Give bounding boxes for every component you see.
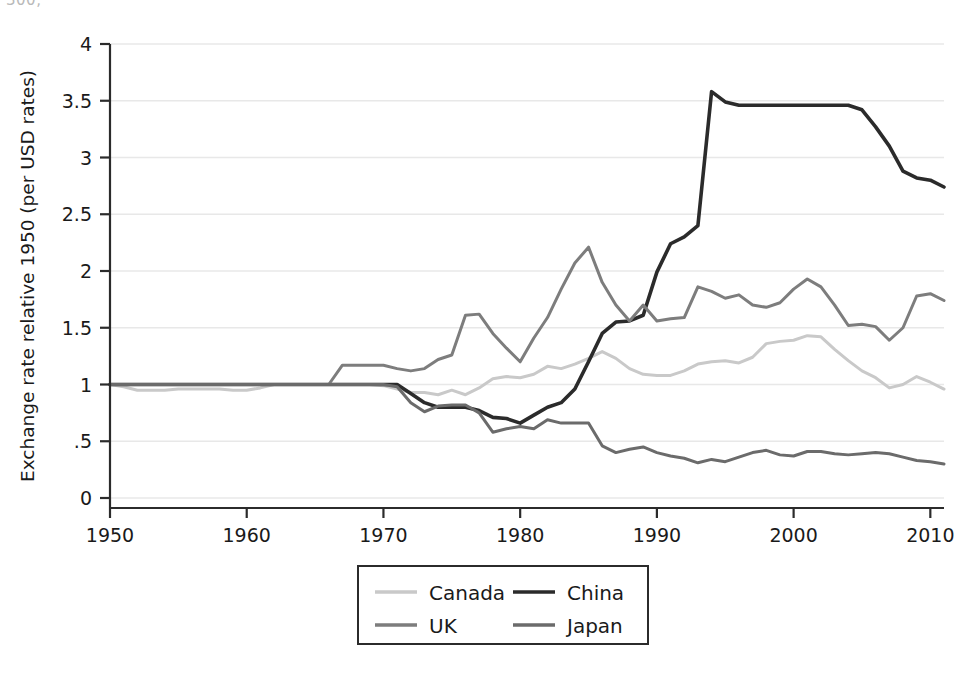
y-tick-label: 2 [80,260,92,282]
x-tick-label: 1990 [633,524,681,546]
legend-label-canada[interactable]: Canada [429,581,505,605]
legend-label-china[interactable]: China [567,581,624,605]
chart-legend[interactable]: CanadaChinaUKJapan [358,566,648,644]
y-tick-label: 4 [80,33,92,55]
legend-label-uk[interactable]: UK [429,614,458,638]
x-tick-label: 2010 [906,524,954,546]
chart-figure: 300, 0.511.522.533.54 195019601970198019… [0,0,956,683]
y-tick-label: 1 [80,374,92,396]
x-tick-label: 1960 [223,524,271,546]
x-tick-label: 1980 [496,524,544,546]
y-tick-label: 0 [80,487,92,509]
exchange-rate-line-chart: 0.511.522.533.54 19501960197019801990200… [0,0,956,683]
y-tick-label: 3.5 [62,90,92,112]
y-tick-label: 2.5 [62,203,92,225]
x-tick-label: 1970 [359,524,407,546]
y-tick-label: 1.5 [62,317,92,339]
y-tick-label: 3 [80,147,92,169]
x-tick-label: 2000 [769,524,817,546]
y-tick-label: .5 [74,430,92,452]
y-axis-title: Exchange rate relative 1950 (per USD rat… [17,70,38,482]
x-tick-label: 1950 [86,524,134,546]
legend-label-japan[interactable]: Japan [565,614,623,638]
clipped-header-text: 300, [6,0,41,9]
